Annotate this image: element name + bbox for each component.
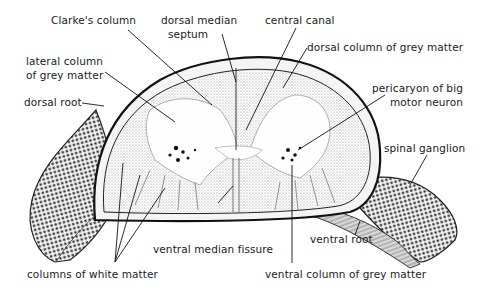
label-pericaryon-line1: pericaryon of big [372, 82, 463, 94]
label-lateral-column-line1: lateral column [26, 55, 103, 67]
label-spinal-ganglion: spinal ganglion [384, 142, 465, 154]
label-dorsal-root: dorsal root [24, 96, 82, 108]
label-dorsal-median-septum-line2: septum [168, 28, 208, 40]
label-dorsal-column-grey-matter: dorsal column of grey matter [307, 41, 463, 53]
label-central-canal: central canal [265, 14, 335, 26]
label-lateral-column-line2: of grey matter [26, 69, 103, 81]
label-dorsal-median-septum-line1: dorsal median [161, 14, 237, 26]
label-columns-white-matter: columns of white matter [27, 268, 158, 280]
label-ventral-column-grey-matter: ventral column of grey matter [265, 268, 426, 280]
label-clarkes-column: Clarke's column [51, 14, 136, 26]
label-pericaryon-line2: motor neuron [390, 96, 463, 108]
label-ventral-median-fissure: ventral median fissure [153, 243, 273, 255]
label-ventral-root: ventral root [310, 233, 373, 245]
